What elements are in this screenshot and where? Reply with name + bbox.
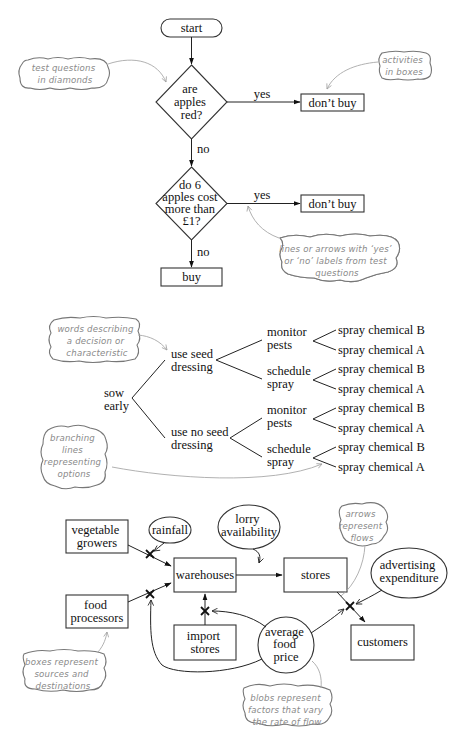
label-line: food (84, 598, 108, 612)
note-sources-text: boxes represent sources and destinations (25, 657, 101, 691)
action-dont-buy-1-label: don’t buy (308, 96, 357, 110)
rainfall-label: rainfall (152, 523, 189, 537)
note-line: questions (315, 268, 359, 278)
tree-leaf: spray chemical B (338, 362, 425, 376)
stores-label: stores (301, 568, 330, 582)
branch-to-chemical-b (313, 369, 336, 380)
label-line: advertising (380, 558, 436, 572)
tree-l2-node: monitorpests (267, 403, 307, 430)
label-line: processors (71, 611, 124, 625)
branch-seed-to-monitor (216, 340, 262, 360)
decision-tree: sow early use seed dressing use no seed … (41, 317, 425, 489)
tree-leaf: spray chemical A (338, 460, 425, 474)
label-line: lorry (235, 512, 260, 526)
branch-noseed-to-monitor (230, 418, 262, 438)
tree-l1-line: use no seed (171, 425, 229, 439)
warehouses-label: warehouses (176, 568, 234, 582)
influence-rainfall (154, 543, 164, 551)
branch-root-to-seed (132, 360, 165, 398)
tree-l2-line: schedule (267, 442, 311, 456)
q1-line: red? (181, 108, 203, 122)
note-line: arrows (345, 509, 376, 519)
branch-to-chemical-b (313, 447, 336, 458)
note-line: representing (44, 457, 102, 467)
customers-label: customers (357, 635, 408, 649)
tree-l2-node: schedulespray (267, 442, 311, 469)
branch-noseed-to-schedule (230, 438, 262, 457)
tree-root-label: sow early (104, 386, 130, 413)
note-line: characteristic (66, 348, 127, 358)
note-line: flows (350, 533, 373, 543)
note-arrow-boxes (327, 62, 378, 89)
q2-yes-label: yes (254, 188, 271, 202)
note-arrow-sources (98, 632, 107, 652)
vegetable-growers-label: vegetable growers (71, 523, 122, 550)
label-line: food (273, 637, 297, 651)
tree-root-line: early (104, 399, 130, 413)
tree-l2-line: pests (267, 338, 292, 352)
note-line: test questions (32, 63, 96, 73)
label-line: vegetable (71, 523, 119, 537)
label-line: import (187, 629, 221, 643)
note-line: blobs represent (250, 693, 321, 703)
start-label: start (181, 21, 203, 35)
note-line: branching (50, 433, 95, 443)
tree-leaves: spray chemical Bspray chemical Aspray ch… (338, 323, 425, 474)
note-line: sources and (34, 669, 89, 679)
note-line-blobs (312, 661, 321, 688)
label-line: price (274, 650, 299, 664)
tree-level2: monitorpestsschedulespraymonitorpestssch… (267, 325, 336, 469)
branch-to-chemical-b (313, 330, 336, 341)
branch-to-chemical-a (313, 419, 336, 428)
q1-yes-label: yes (254, 87, 271, 101)
valve-icon (346, 602, 354, 610)
branch-to-chemical-a (313, 458, 336, 467)
branch-seed-to-schedule (216, 360, 262, 379)
tree-leaf: spray chemical A (338, 382, 425, 396)
advertising-label: advertising expenditure (379, 558, 438, 585)
note-line: boxes represent (25, 657, 98, 667)
note-line: a decision or (67, 336, 125, 346)
influence-price-to-customers (311, 609, 344, 633)
note-arrow-arrows (248, 206, 279, 238)
branch-root-to-noseed (132, 398, 165, 438)
tree-leaf: spray chemical B (338, 323, 425, 337)
q1-line: are (182, 82, 198, 96)
tree-l1-line: dressing (171, 438, 213, 452)
tree-leaf: spray chemical B (338, 440, 425, 454)
influence-advertising (356, 590, 382, 604)
note-line: options (57, 469, 90, 479)
tree-l2-line: monitor (267, 403, 307, 417)
tree-l2-line: monitor (267, 325, 307, 339)
action-dont-buy-2-label: don’t buy (308, 197, 357, 211)
import-stores-label: import stores (187, 629, 223, 656)
tree-l1-seed: use seed dressing (171, 347, 216, 374)
tree-l1-noseed: use no seed dressing (171, 425, 232, 452)
note-line: represent (339, 521, 383, 531)
branch-to-chemical-b (313, 408, 336, 419)
diagram-canvas: start are apples red? yes don’t buy no d… (0, 0, 469, 740)
tree-l2-line: spray (267, 377, 295, 391)
q2-label: do 6 apples cost more than £1? (162, 178, 220, 228)
tree-l1-line: use seed (171, 347, 214, 361)
flow-diagram: vegetable growers food processors wareho… (23, 503, 447, 727)
tree-l2-node: schedulespray (267, 364, 311, 391)
note-line: lines or arrows with ‘yes’ (279, 244, 392, 254)
label-line: growers (77, 536, 117, 550)
note-line: in boxes (385, 67, 423, 77)
note-line: in diamonds (38, 75, 93, 85)
note-blobs-text: blobs represent factors that vary the ra… (248, 693, 326, 727)
label-line: availability (221, 525, 278, 539)
influence-lorry (253, 549, 260, 563)
flowchart: start are apples red? yes don’t buy no d… (19, 19, 432, 286)
note-line: factors that vary (248, 705, 324, 715)
note-line: words describing (57, 324, 134, 334)
note-line: destinations (35, 681, 90, 691)
tree-leaf: spray chemical B (338, 401, 425, 415)
q1-no-label: no (197, 142, 210, 156)
branch-to-chemical-a (313, 380, 336, 389)
label-line: expenditure (379, 571, 438, 585)
action-buy-label: buy (182, 270, 202, 284)
tree-root-line: sow (104, 386, 124, 400)
tree-leaf: spray chemical A (338, 343, 425, 357)
